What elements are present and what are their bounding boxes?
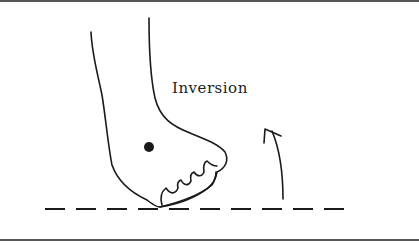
bottom-border (0, 239, 419, 241)
foot-outline (91, 18, 227, 207)
inversion-diagram: Inversion (0, 0, 419, 245)
inversion-label: Inversion (172, 79, 248, 97)
rotation-arrow (272, 131, 283, 199)
foot-illustration (0, 0, 419, 245)
sole-line (160, 172, 216, 207)
ankle-dot (144, 142, 154, 152)
